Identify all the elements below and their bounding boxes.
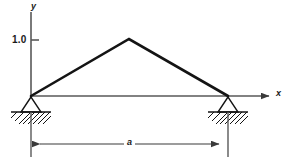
diagram-canvas (0, 0, 286, 159)
deflection-shape (31, 39, 228, 96)
right-support-triangle (218, 97, 238, 112)
left-support-triangle (21, 97, 41, 112)
span-dimension-label: a (124, 138, 135, 147)
y-axis-label: y (31, 2, 36, 11)
y-tick-label-1.0: 1.0 (12, 35, 27, 45)
beam-deflection-figure: y x 1.0 a (0, 0, 286, 159)
x-axis-label: x (276, 89, 281, 98)
